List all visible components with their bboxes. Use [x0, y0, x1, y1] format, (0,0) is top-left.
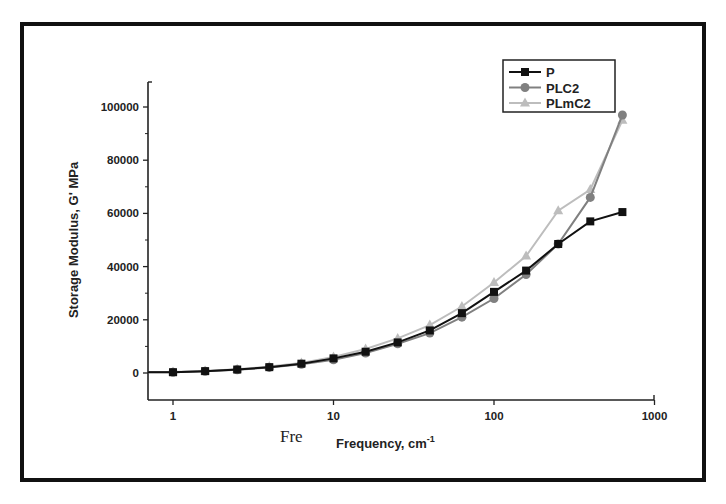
y-tick-label: 40000	[107, 261, 139, 273]
legend: PPLC2PLmC2	[503, 60, 615, 112]
y-tick-label: 60000	[107, 207, 139, 219]
x-tick-label: 1	[170, 410, 177, 422]
legend-label: PLC2	[546, 81, 579, 96]
y-tick-label: 80000	[107, 154, 139, 166]
x-axis-title: Frequency, cm-1	[336, 434, 435, 451]
chart-plot: 0200004000060000800001000001101001000 PP…	[0, 0, 726, 504]
y-axis-title: Storage Modulus, G' MPa	[66, 161, 81, 318]
x-tick-label: 100	[484, 410, 503, 422]
legend-label: PLmC2	[546, 96, 591, 111]
y-tick-label: 20000	[107, 314, 139, 326]
x-tick-label: 10	[327, 410, 340, 422]
stray-text: Fre	[280, 427, 303, 446]
legend-label: P	[546, 65, 555, 80]
x-tick-label: 1000	[642, 410, 668, 422]
y-tick-label: 100000	[101, 101, 139, 113]
series-p	[148, 208, 626, 376]
data-series	[148, 110, 627, 376]
y-tick-label: 0	[133, 367, 139, 379]
